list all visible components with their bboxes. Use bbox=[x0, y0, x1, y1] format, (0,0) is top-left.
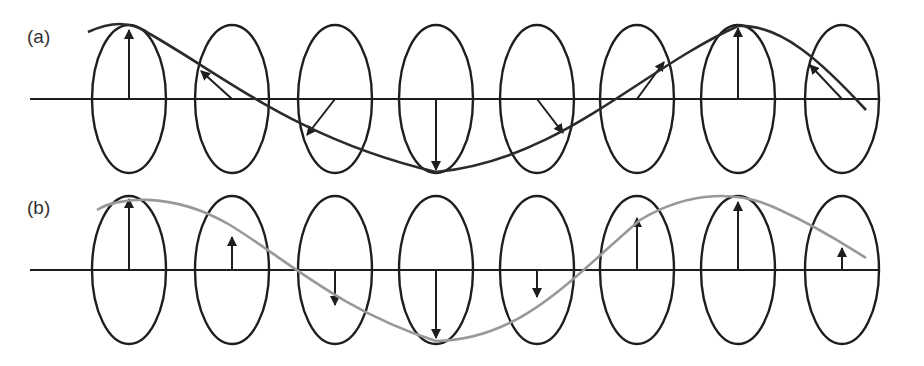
envelope-curve-b bbox=[97, 196, 866, 341]
field-vector-arrow bbox=[637, 62, 664, 99]
polarization-diagram: (a) (b) bbox=[0, 0, 924, 366]
diagram-canvas bbox=[0, 0, 924, 366]
panel-b-linear-polarization bbox=[30, 196, 880, 344]
panel-a-circular-polarization bbox=[30, 25, 880, 173]
field-vector-arrow bbox=[537, 99, 563, 133]
